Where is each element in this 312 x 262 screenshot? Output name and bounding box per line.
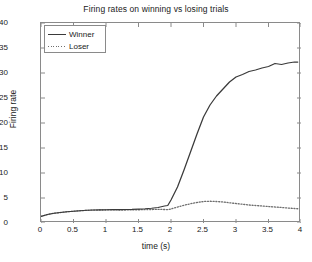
legend-box: Winner Loser	[44, 25, 106, 53]
x-tick-label: 2	[168, 225, 172, 234]
y-axis-label: Firing rate	[8, 49, 18, 169]
legend-label-loser: Loser	[69, 41, 89, 52]
x-tick-label: 2.5	[197, 225, 208, 234]
chart-title: Firing rates on winning vs losing trials	[0, 4, 312, 14]
x-tick-label: 3	[233, 225, 237, 234]
y-tick-label: 0	[0, 218, 8, 227]
legend-item-loser: Loser	[48, 40, 105, 52]
x-axis-label: time (s)	[0, 241, 312, 251]
y-tick-label: 30	[0, 68, 8, 77]
plot-area: Winner Loser	[40, 22, 300, 222]
x-tick-label: 0.5	[67, 225, 78, 234]
legend-label-winner: Winner	[69, 29, 94, 40]
y-tick-label: 15	[0, 143, 8, 152]
y-tick-label: 25	[0, 93, 8, 102]
legend-item-winner: Winner	[48, 28, 105, 40]
x-tick-label: 4	[298, 225, 302, 234]
x-tick-label: 3.5	[262, 225, 273, 234]
axis-ticks	[41, 23, 301, 223]
x-tick-label: 1	[103, 225, 107, 234]
series-line-winner	[41, 62, 298, 217]
legend-key-solid-line-icon	[48, 30, 66, 38]
plot-svg	[41, 23, 301, 223]
y-tick-label: 5	[0, 193, 8, 202]
x-tick-label: 1.5	[132, 225, 143, 234]
y-tick-label: 20	[0, 118, 8, 127]
legend-key-dotted-line-icon	[48, 42, 66, 50]
chart-figure: Firing rates on winning vs losing trials…	[0, 0, 312, 262]
y-tick-label: 40	[0, 18, 8, 27]
y-tick-label: 10	[0, 168, 8, 177]
x-tick-label: 0	[38, 225, 42, 234]
y-tick-label: 35	[0, 43, 8, 52]
